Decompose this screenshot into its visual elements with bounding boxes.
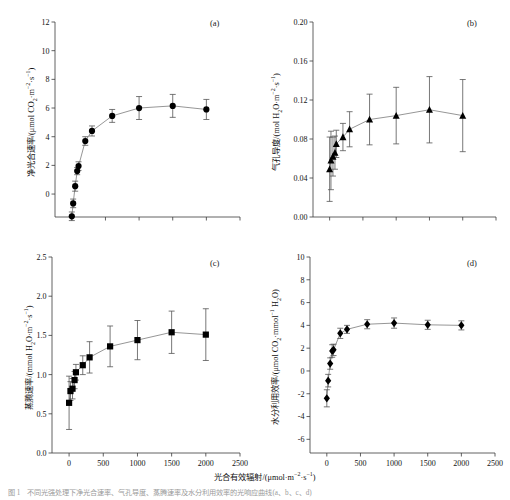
panel-c-tag: (c) (210, 258, 219, 268)
panel-a-ylabel-text: 净光合速率/(μmol CO2·m−2·s−1) (27, 68, 36, 178)
y-tick-label: -6 (298, 435, 305, 444)
figure-xlabel-text: 光合有效辐射/(μmol·m−2·s−1) (214, 473, 315, 482)
x-tick-label: 500 (354, 459, 366, 468)
y-tick-label: 0.00 (294, 213, 308, 222)
panel-d: -6-4-2024681005001000150020002500 水分利用效率… (255, 245, 510, 485)
y-tick-label: 0.04 (294, 174, 308, 183)
y-tick-label: -2 (298, 390, 305, 399)
y-tick-label: 10 (42, 47, 50, 56)
y-tick-label: 0.16 (294, 57, 308, 66)
y-tick-label: 0.5 (37, 410, 47, 419)
y-tick-label: 8 (301, 276, 305, 285)
panel-d-ylabel: 水分利用效率/(μmol CO2·mmol−1 H2O) (268, 257, 280, 457)
data-point-marker (72, 183, 78, 189)
data-point-marker (425, 321, 431, 329)
x-tick-label: 0 (325, 459, 329, 468)
data-point-marker (89, 128, 95, 134)
data-point-marker (87, 354, 93, 360)
y-tick-label: 6 (46, 104, 50, 113)
data-point-marker (203, 332, 209, 338)
data-point-marker (458, 321, 464, 329)
panel-b-plot: 0.000.040.080.120.160.20 (255, 0, 510, 250)
data-point-marker (70, 200, 76, 206)
x-tick-label: 1000 (386, 459, 402, 468)
y-tick-label: 1.5 (37, 331, 47, 340)
panel-b: 0.000.040.080.120.160.20 气孔导度/(mol H2O·m… (255, 0, 510, 250)
y-tick-label: 2 (46, 161, 50, 170)
data-point-marker (337, 329, 343, 337)
panel-a-plot: 024681012 (0, 0, 255, 250)
y-tick-label: 2.5 (37, 253, 47, 262)
data-point-marker (107, 343, 113, 349)
data-point-marker (69, 213, 75, 219)
y-tick-label: 2.0 (37, 292, 47, 301)
y-tick-label: 0.12 (294, 96, 308, 105)
y-tick-label: 6 (301, 298, 305, 307)
data-point-marker (73, 369, 79, 375)
x-tick-label: 1500 (164, 459, 180, 468)
y-tick-label: 4 (301, 321, 305, 330)
data-point-marker (66, 400, 72, 406)
data-point-marker (364, 320, 370, 328)
x-tick-label: 2500 (232, 459, 248, 468)
figure-caption: 图 1 不同光强处理下净光合速率、气孔导度、蒸腾速率及水分利用效率的光响应曲线(… (8, 489, 506, 500)
data-point-marker (71, 377, 77, 383)
data-point-marker (203, 106, 209, 112)
y-tick-label: 0.0 (37, 449, 47, 458)
data-point-marker (170, 103, 176, 109)
panel-a-ylabel: 净光合速率/(μmol CO2·m−2·s−1) (24, 30, 36, 215)
y-tick-label: 1.0 (37, 371, 47, 380)
y-tick-label: 4 (46, 133, 50, 142)
panel-c-ylabel-text: 蒸腾速率/(mmol H2O·m−2·s−1) (25, 305, 34, 409)
y-tick-label: 0 (46, 190, 50, 199)
y-tick-label: 0 (301, 367, 305, 376)
panel-c-ylabel: 蒸腾速率/(mmol H2O·m−2·s−1) (22, 265, 34, 450)
data-point-marker (346, 126, 353, 133)
panel-a-tag: (a) (210, 18, 219, 28)
panel-b-tag: (b) (467, 18, 477, 28)
panel-d-plot: -6-4-2024681005001000150020002500 (255, 245, 510, 485)
photosynthesis-light-response-figure: 024681012 净光合速率/(μmol CO2·m−2·s−1) (a) 0… (0, 0, 510, 500)
x-tick-label: 1500 (420, 459, 436, 468)
x-tick-label: 0 (67, 459, 71, 468)
data-point-marker (325, 377, 331, 385)
data-point-marker (391, 319, 397, 327)
x-tick-label: 1000 (129, 459, 145, 468)
y-tick-label: 0.20 (294, 18, 308, 27)
y-tick-label: 10 (297, 253, 305, 262)
data-point-marker (331, 149, 338, 156)
y-tick-label: 8 (46, 75, 50, 84)
data-point-marker (426, 106, 433, 113)
y-tick-label: 0.08 (294, 135, 308, 144)
panel-b-ylabel: 气孔导度/(mol H2O·m−2·s−1) (269, 32, 281, 212)
panel-d-ylabel-text: 水分利用效率/(μmol CO2·mmol−1 H2O) (271, 289, 280, 424)
data-point-marker (136, 105, 142, 111)
figure-xlabel: 光合有效辐射/(μmol·m−2·s−1) (155, 470, 375, 482)
data-point-marker (134, 337, 140, 343)
panel-c-plot: 0.00.51.01.52.02.505001000150020002500 (0, 245, 255, 485)
data-point-marker (69, 386, 75, 392)
panel-a: 024681012 净光合速率/(μmol CO2·m−2·s−1) (a) (0, 0, 255, 250)
panel-c: 0.00.51.01.52.02.505001000150020002500 蒸… (0, 245, 255, 485)
data-point-marker (324, 394, 330, 402)
data-point-marker (75, 163, 81, 169)
y-tick-label: 2 (301, 344, 305, 353)
data-point-marker (82, 138, 88, 144)
data-point-marker (344, 325, 350, 333)
x-tick-label: 2500 (487, 459, 503, 468)
x-tick-label: 2000 (198, 459, 214, 468)
data-point-marker (109, 113, 115, 119)
y-tick-label: 12 (42, 18, 50, 27)
x-tick-label: 500 (97, 459, 109, 468)
data-point-marker (80, 362, 86, 368)
panel-b-ylabel-text: 气孔导度/(mol H2O·m−2·s−1) (272, 73, 281, 171)
y-tick-label: -4 (298, 412, 305, 421)
data-point-marker (327, 359, 333, 367)
data-point-marker (169, 329, 175, 335)
x-tick-label: 2000 (453, 459, 469, 468)
panel-d-tag: (d) (467, 258, 477, 268)
